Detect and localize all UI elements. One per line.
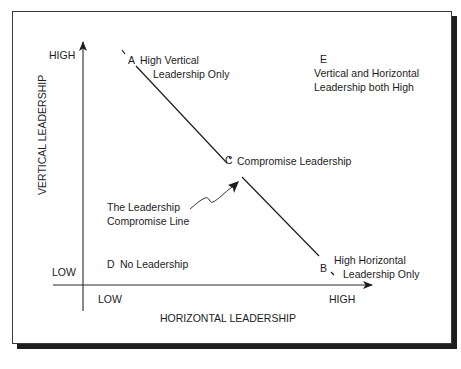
point-b-letter: B: [320, 262, 327, 275]
annotation-arrowhead-icon: [228, 181, 239, 193]
annotation-line2: Compromise Line: [107, 215, 189, 228]
point-e-text-line1: Vertical and Horizontal: [314, 67, 419, 80]
vertical-axis-low-label: LOW: [52, 266, 76, 279]
annotation-line1: The Leadership: [107, 201, 180, 214]
point-d-text: No Leadership: [120, 258, 188, 271]
annotation-pointer: [190, 187, 232, 209]
point-b-text-line2: Leadership Only: [343, 268, 419, 281]
tick-a: [122, 50, 125, 54]
horizontal-axis-title: HORIZONTAL LEADERSHIP: [160, 312, 296, 325]
point-e-text-line2: Leadership both High: [314, 81, 414, 94]
point-a-text-line2: Leadership Only: [153, 68, 229, 81]
compromise-line-lower: [242, 177, 319, 256]
point-a-text-line1: High Vertical: [140, 54, 199, 67]
vertical-axis-title: VERTICAL LEADERSHIP: [36, 75, 48, 195]
point-b-text-line1: High Horizontal: [334, 254, 406, 267]
point-c-text: Compromise Leadership: [237, 155, 351, 168]
point-e-letter: E: [320, 53, 327, 66]
point-a-letter: A: [128, 54, 135, 67]
tick-b: [331, 272, 334, 275]
horizontal-axis-low-label: LOW: [98, 293, 122, 306]
point-c-letter: C: [225, 154, 233, 167]
vertical-axis-high-label: HIGH: [49, 49, 75, 62]
point-d-letter: D: [107, 258, 115, 271]
horizontal-axis-high-label: HIGH: [329, 293, 355, 306]
